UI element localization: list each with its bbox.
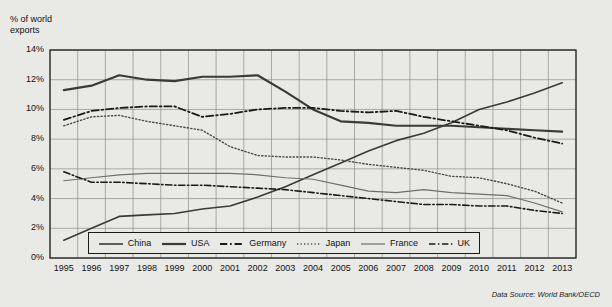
- legend-label: France: [390, 238, 418, 248]
- y-axis-tick-label: 10%: [10, 103, 44, 113]
- legend-item-france: France: [360, 238, 418, 248]
- legend-swatch-france-icon: [360, 239, 386, 248]
- legend-label: USA: [191, 238, 210, 248]
- source-note: Data Source: World Bank/OECD: [492, 290, 600, 299]
- plot-background: [50, 50, 576, 258]
- x-axis-tick-label: 2013: [542, 263, 582, 273]
- legend-swatch-uk-icon: [428, 239, 454, 248]
- chart-legend: ChinaUSAGermanyJapanFranceUK: [88, 232, 480, 254]
- legend-label: China: [128, 238, 152, 248]
- legend-item-uk: UK: [428, 238, 471, 248]
- legend-item-germany: Germany: [219, 238, 286, 248]
- legend-swatch-germany-icon: [219, 239, 245, 248]
- legend-label: Germany: [249, 238, 286, 248]
- plot-area: [0, 0, 612, 307]
- y-axis-tick-label: 8%: [10, 133, 44, 143]
- y-axis-tick-label: 14%: [10, 44, 44, 54]
- chart-container: % of worldexports 0%2%4%6%8%10%12%14% 19…: [0, 0, 612, 307]
- legend-item-japan: Japan: [296, 238, 351, 248]
- legend-label: UK: [458, 238, 471, 248]
- y-axis-tick-label: 6%: [10, 163, 44, 173]
- y-axis-tick-label: 4%: [10, 193, 44, 203]
- y-axis-tick-label: 12%: [10, 74, 44, 84]
- y-axis-tick-label: 0%: [10, 252, 44, 262]
- legend-swatch-china-icon: [98, 239, 124, 248]
- legend-swatch-japan-icon: [296, 239, 322, 248]
- legend-label: Japan: [326, 238, 351, 248]
- legend-swatch-usa-icon: [161, 239, 187, 248]
- y-axis-tick-label: 2%: [10, 222, 44, 232]
- legend-item-usa: USA: [161, 238, 210, 248]
- legend-item-china: China: [98, 238, 152, 248]
